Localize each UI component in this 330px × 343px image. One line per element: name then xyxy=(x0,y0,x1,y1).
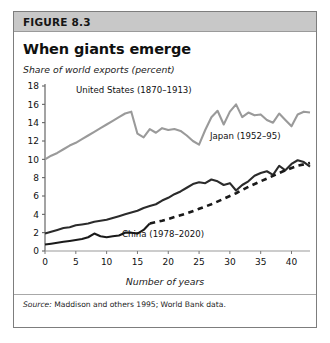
svg-text:15: 15 xyxy=(132,257,143,267)
source-text: Maddison and others 1995; World Bank dat… xyxy=(52,300,226,309)
series-label-china: China (1978–2020) xyxy=(122,229,204,239)
figure-header: FIGURE 8.3 xyxy=(14,12,316,32)
svg-text:40: 40 xyxy=(286,257,298,267)
page-title: When giants emerge xyxy=(23,41,316,57)
series-label-united-states: United States (1870–1913) xyxy=(76,85,192,95)
unit-caption: Share of world exports (percent) xyxy=(23,64,316,76)
svg-text:0: 0 xyxy=(42,257,48,267)
x-axis-title: Number of years xyxy=(14,276,316,287)
figure-card: FIGURE 8.3 When giants emerge Share of w… xyxy=(13,11,317,328)
svg-text:18: 18 xyxy=(28,81,40,91)
svg-text:10: 10 xyxy=(28,154,40,164)
svg-text:16: 16 xyxy=(28,99,40,109)
svg-text:4: 4 xyxy=(33,209,39,219)
svg-text:12: 12 xyxy=(28,136,39,146)
svg-text:5: 5 xyxy=(73,257,79,267)
svg-text:14: 14 xyxy=(28,118,40,128)
chart-plot-area: 0246810121416180510152025303540 United S… xyxy=(14,79,316,275)
svg-text:30: 30 xyxy=(224,257,236,267)
svg-text:20: 20 xyxy=(163,257,175,267)
svg-text:8: 8 xyxy=(33,173,39,183)
svg-text:35: 35 xyxy=(255,257,266,267)
figure-number-label: FIGURE 8.3 xyxy=(23,16,91,28)
source-note: Source: Maddison and others 1995; World … xyxy=(23,300,316,309)
svg-text:0: 0 xyxy=(33,246,39,256)
source-lead: Source: xyxy=(23,300,52,309)
svg-text:25: 25 xyxy=(193,257,204,267)
line-chart-svg: 0246810121416180510152025303540 xyxy=(14,79,316,275)
source-divider xyxy=(14,294,316,295)
svg-text:6: 6 xyxy=(33,191,39,201)
svg-text:2: 2 xyxy=(33,228,39,238)
svg-text:10: 10 xyxy=(101,257,113,267)
series-label-japan: Japan (1952–95) xyxy=(210,131,281,141)
